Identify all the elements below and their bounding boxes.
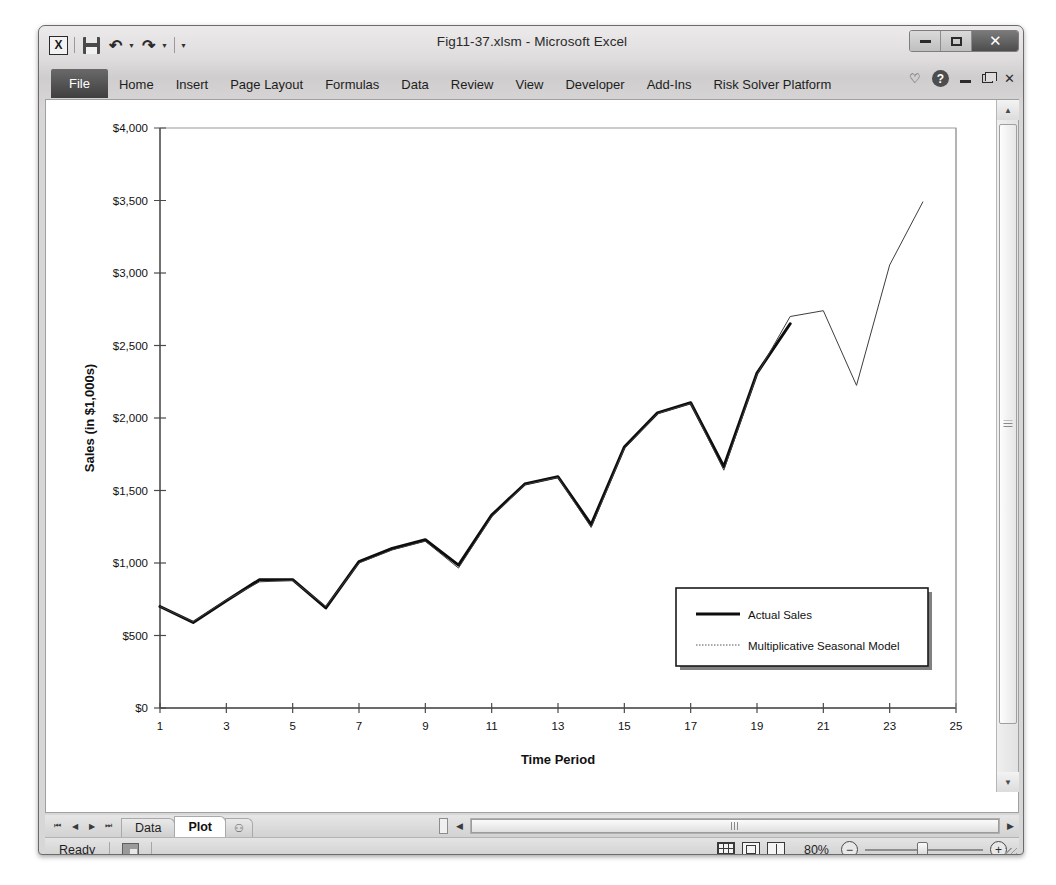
scrollbar-grip-icon [731, 822, 739, 830]
y-tick-label: $0 [135, 702, 148, 714]
page-layout-view-icon[interactable] [742, 842, 760, 855]
scroll-left-arrow-icon[interactable]: ◀ [451, 818, 468, 835]
y-tick-label: $500 [122, 630, 148, 642]
close-window-button[interactable]: ✕ [972, 31, 1018, 51]
tab-insert[interactable]: Insert [165, 71, 220, 98]
y-axis-title: Sales (in $1,000s) [82, 364, 97, 472]
tab-page-layout[interactable]: Page Layout [219, 71, 314, 98]
x-tick-label: 7 [356, 720, 362, 732]
document-close-icon[interactable]: ✕ [1004, 71, 1015, 86]
document-minimize-icon[interactable] [960, 74, 971, 83]
zoom-level-label[interactable]: 80% [797, 843, 829, 856]
legend-label: Multiplicative Seasonal Model [748, 640, 900, 652]
tab-risk-solver-platform[interactable]: Risk Solver Platform [702, 71, 842, 98]
ribbon-tab-strip: File Home Insert Page Layout Formulas Da… [39, 66, 1024, 98]
legend-label: Actual Sales [748, 609, 812, 621]
status-divider [109, 842, 110, 855]
title-bar: X ↶ ▼ ↷ ▼ ▼ Fig11-37.xlsm - Microsoft Ex… [39, 26, 1024, 66]
normal-view-icon[interactable] [717, 842, 735, 855]
tab-view[interactable]: View [504, 71, 554, 98]
x-tick-label: 23 [883, 720, 896, 732]
y-tick-label: $2,000 [113, 412, 148, 424]
x-tick-label: 17 [684, 720, 697, 732]
page-break-view-icon[interactable] [767, 842, 785, 855]
x-tick-label: 25 [950, 720, 963, 732]
collapse-ribbon-icon[interactable]: ♡ [909, 71, 921, 86]
x-tick-label: 11 [486, 720, 498, 732]
scroll-up-arrow-icon[interactable]: ▲ [997, 100, 1019, 120]
scroll-down-arrow-icon[interactable]: ▼ [997, 772, 1019, 792]
tab-developer[interactable]: Developer [554, 71, 635, 98]
status-right-controls: 80% − + [717, 841, 1019, 855]
sales-forecast-line-chart: $0$500$1,000$1,500$2,000$2,500$3,000$3,5… [68, 110, 988, 782]
vertical-scrollbar[interactable]: ▲ ▼ [996, 100, 1018, 792]
macro-record-icon[interactable] [122, 843, 139, 856]
window-controls: ✕ [909, 30, 1019, 52]
chart-background [68, 110, 988, 782]
window-title: Fig11-37.xlsm - Microsoft Excel [39, 34, 1024, 49]
status-text: Ready [45, 843, 109, 856]
help-icon[interactable]: ? [932, 70, 949, 87]
x-tick-label: 9 [422, 720, 428, 732]
y-tick-label: $3,500 [113, 195, 148, 207]
screenshot-root: X ↶ ▼ ↷ ▼ ▼ Fig11-37.xlsm - Microsoft Ex… [0, 0, 1056, 885]
scrollbar-grip-icon [1004, 421, 1013, 428]
ribbon-right-controls: ♡ ? ✕ [909, 70, 1015, 87]
sheet-tab-plot[interactable]: Plot [174, 816, 226, 837]
scroll-right-arrow-icon[interactable]: ▶ [1002, 818, 1019, 835]
minimize-window-button[interactable] [910, 31, 941, 51]
sheet-tab-list: Data Plot ⚇ [121, 815, 252, 837]
y-tick-label: $3,000 [113, 267, 148, 279]
y-tick-label: $1,000 [113, 557, 148, 569]
horizontal-scrollbar[interactable] [470, 818, 1000, 834]
y-tick-label: $4,000 [113, 122, 148, 134]
x-axis-title: Time Period [521, 752, 595, 767]
previous-sheet-icon[interactable]: ◀ [67, 819, 82, 834]
zoom-out-button[interactable]: − [841, 841, 858, 855]
zoom-slider[interactable] [865, 849, 983, 851]
worksheet-area: $0$500$1,000$1,500$2,000$2,500$3,000$3,5… [45, 99, 1019, 813]
first-sheet-icon[interactable]: ⏮ [50, 819, 65, 834]
y-tick-label: $1,500 [113, 485, 148, 497]
x-tick-label: 21 [817, 720, 830, 732]
excel-window: X ↶ ▼ ↷ ▼ ▼ Fig11-37.xlsm - Microsoft Ex… [38, 25, 1024, 855]
zoom-slider-thumb[interactable] [917, 842, 928, 856]
tab-home[interactable]: Home [108, 71, 165, 98]
tab-file[interactable]: File [51, 69, 108, 98]
last-sheet-icon[interactable]: ⏭ [101, 819, 116, 834]
x-tick-label: 19 [751, 720, 764, 732]
x-tick-label: 3 [223, 720, 229, 732]
chart-object[interactable]: $0$500$1,000$1,500$2,000$2,500$3,000$3,5… [68, 110, 988, 782]
sheet-tab-bar: ⏮ ◀ ▶ ⏭ Data Plot ⚇ ◀ ▶ [45, 815, 1019, 837]
sheet-navigation-buttons: ⏮ ◀ ▶ ⏭ [45, 819, 121, 834]
vertical-scrollbar-thumb[interactable] [999, 124, 1017, 724]
tab-review[interactable]: Review [440, 71, 505, 98]
x-tick-label: 15 [618, 720, 631, 732]
horizontal-split-handle[interactable] [439, 818, 448, 834]
horizontal-scrollbar-thumb[interactable] [471, 819, 999, 833]
x-tick-label: 5 [289, 720, 295, 732]
status-divider-2 [151, 842, 152, 855]
ribbon-tabs: File Home Insert Page Layout Formulas Da… [51, 66, 842, 98]
resize-grip-icon[interactable] [1005, 848, 1017, 855]
tab-formulas[interactable]: Formulas [314, 71, 390, 98]
chart-legend: Actual SalesMultiplicative Seasonal Mode… [676, 588, 932, 670]
next-sheet-icon[interactable]: ▶ [84, 819, 99, 834]
maximize-window-button[interactable] [941, 31, 972, 51]
tab-add-ins[interactable]: Add-Ins [636, 71, 703, 98]
insert-worksheet-icon[interactable]: ⚇ [225, 818, 253, 837]
x-tick-label: 1 [157, 720, 163, 732]
sheet-tab-data[interactable]: Data [121, 818, 175, 837]
document-restore-icon[interactable] [982, 74, 993, 83]
x-tick-label: 13 [552, 720, 565, 732]
sheet-canvas[interactable]: $0$500$1,000$1,500$2,000$2,500$3,000$3,5… [46, 100, 996, 792]
tab-data[interactable]: Data [390, 71, 439, 98]
y-tick-label: $2,500 [113, 340, 148, 352]
status-bar: Ready 80% − + [45, 837, 1019, 855]
